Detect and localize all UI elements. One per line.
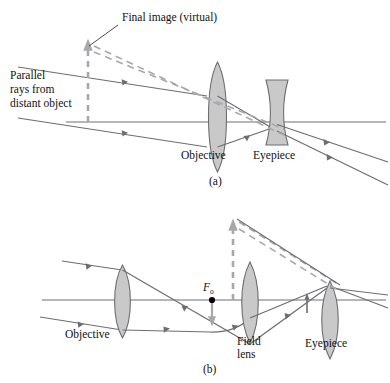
- caption-a: (a): [209, 175, 222, 188]
- field-lens-label-line1: Field: [237, 335, 261, 347]
- objective-label-b: Objective: [65, 328, 110, 341]
- caption-b: (b): [203, 363, 217, 376]
- field-lens-label-line2: lens: [237, 348, 256, 360]
- objective-label-a: Objective: [181, 149, 226, 162]
- eyepiece-label-a: Eyepiece: [253, 149, 295, 162]
- focal-point-subscript: o: [210, 287, 214, 296]
- focal-point-dot-b: [209, 297, 215, 303]
- parallel-rays-label-line3: distant object: [10, 97, 72, 110]
- final-image-label: Final image (virtual): [122, 11, 217, 24]
- telescope-ray-diagram-figure: Final image (virtual) Parallel rays from…: [0, 0, 390, 383]
- parallel-rays-label-line1: Parallel: [10, 69, 45, 81]
- eyepiece-label-b: Eyepiece: [305, 337, 347, 350]
- parallel-rays-label-line2: rays from: [10, 83, 54, 96]
